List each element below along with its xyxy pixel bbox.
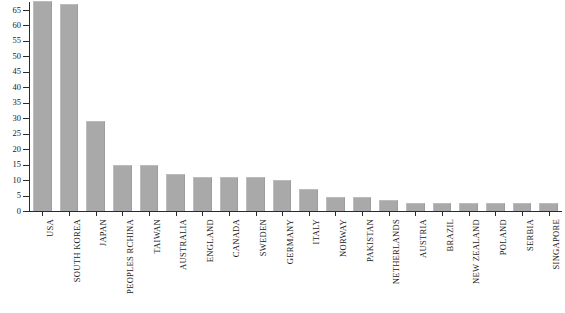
bar[interactable] (353, 197, 372, 211)
y-axis-tick-label: 60 (0, 21, 21, 30)
bar[interactable] (326, 197, 345, 211)
x-axis-tick-label: POLAND (499, 219, 508, 255)
x-axis-tick (69, 212, 70, 216)
x-axis-tick (149, 212, 150, 216)
x-axis-tick (549, 212, 550, 216)
x-axis-tick-label: ENGLAND (206, 219, 215, 262)
x-axis-tick-label: TAIWAN (153, 219, 162, 254)
y-axis-tick-label: 15 (0, 160, 21, 169)
x-axis-tick-label: PAKISTAN (366, 219, 375, 262)
bar[interactable] (299, 189, 318, 211)
x-axis-tick (495, 212, 496, 216)
bar[interactable] (113, 165, 132, 211)
y-axis-tick-label: 45 (0, 67, 21, 76)
y-axis-tick-label: 20 (0, 145, 21, 154)
x-axis-tick (202, 212, 203, 216)
bar[interactable] (140, 165, 159, 211)
y-axis-tick-label: 35 (0, 98, 21, 107)
x-axis-tick (42, 212, 43, 216)
x-axis-tick-label: JAPAN (99, 219, 108, 246)
x-axis-tick-label: NORWAY (339, 219, 348, 257)
x-axis-tick-label: PEOPLES RCHINA (126, 219, 135, 294)
x-axis-tick-label: USA (46, 219, 55, 237)
x-axis-tick-label: BRAZIL (446, 219, 455, 252)
x-axis-tick (362, 212, 363, 216)
bar[interactable] (86, 121, 105, 211)
y-axis-tick-label: 0 (0, 207, 21, 216)
x-axis-tick-label: SINGAPORE (552, 219, 561, 269)
x-axis-tick-label: AUSTRALIA (179, 219, 188, 270)
bar[interactable] (486, 203, 505, 211)
y-axis-tick-label: 65 (0, 6, 21, 15)
bar-chart: 05101520253035404550556065 USASOUTH KORE… (0, 0, 565, 313)
x-axis-tick (469, 212, 470, 216)
x-axis-tick (282, 212, 283, 216)
x-axis-tick (335, 212, 336, 216)
bars-container (29, 0, 562, 212)
x-axis-tick (415, 212, 416, 216)
x-axis-tick (309, 212, 310, 216)
x-axis-tick-label: ITALY (312, 219, 321, 244)
x-axis-tick (442, 212, 443, 216)
x-axis-tick (96, 212, 97, 216)
bar[interactable] (33, 1, 52, 211)
bar[interactable] (459, 203, 478, 211)
bar[interactable] (513, 203, 532, 211)
y-axis-tick-label: 50 (0, 52, 21, 61)
y-axis-tick-label: 10 (0, 176, 21, 185)
x-axis-tick (229, 212, 230, 216)
y-axis-tick-label: 25 (0, 129, 21, 138)
bar[interactable] (433, 203, 452, 211)
x-axis-tick-label: AUSTRIA (419, 219, 428, 258)
bar[interactable] (246, 177, 265, 211)
x-axis-tick-label: NEW ZEALAND (472, 219, 481, 284)
x-axis-tick-label: SOUTH KOREA (73, 219, 82, 282)
x-axis-tick-label: SERBIA (526, 219, 535, 251)
bar[interactable] (193, 177, 212, 211)
y-axis-tick-label: 30 (0, 114, 21, 123)
x-axis-tick (389, 212, 390, 216)
bar[interactable] (220, 177, 239, 211)
x-axis-tick (256, 212, 257, 216)
bar[interactable] (539, 203, 558, 211)
bar[interactable] (406, 203, 425, 211)
bar[interactable] (273, 180, 292, 211)
x-axis-tick-label: NETHERLANDS (392, 219, 401, 284)
x-axis-tick-label: CANADA (232, 219, 241, 257)
x-axis-tick (122, 212, 123, 216)
bar[interactable] (166, 174, 185, 211)
y-axis-tick-label: 5 (0, 191, 21, 200)
x-axis-tick (176, 212, 177, 216)
x-axis-tick (522, 212, 523, 216)
bar[interactable] (60, 4, 79, 211)
x-axis-tick-label: SWEDEN (259, 219, 268, 256)
y-axis-tick-label: 40 (0, 83, 21, 92)
y-axis-tick-label: 55 (0, 36, 21, 45)
x-axis-tick-label: GERMANY (286, 219, 295, 264)
bar[interactable] (379, 200, 398, 211)
